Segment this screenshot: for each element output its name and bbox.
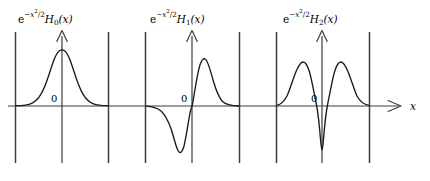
panel-h0-label-index: 0 xyxy=(54,18,59,27)
x-axis xyxy=(8,101,401,112)
panel-h1-label: e−x2/2H1(x) xyxy=(150,11,205,24)
panel-h2-origin-label: 0 xyxy=(311,94,317,104)
panel-h0-group xyxy=(16,31,109,164)
panel-h2-group xyxy=(277,31,370,164)
panel-h0-label-exponent: −x2/2 xyxy=(24,10,45,19)
panel-h0-label-arg: (x) xyxy=(59,13,73,25)
x-axis-label: x xyxy=(410,101,416,112)
panel-h0-label-H: H xyxy=(45,13,54,25)
panel-h1-label-exponent: −x2/2 xyxy=(156,10,177,19)
panel-h0-origin-label: 0 xyxy=(51,94,57,104)
panel-h1-group xyxy=(146,31,240,164)
panel-h1-label-index: 1 xyxy=(186,18,191,27)
hermite-function-figure: e−x2/2H0(x) e−x2/2H1(x) e−x2/2H2(x) 0 0 … xyxy=(0,0,430,181)
panel-h0-label: e−x2/2H0(x) xyxy=(18,11,73,24)
panel-h2-label-exponent: −x2/2 xyxy=(289,10,310,19)
panel-h2-label-arg: (x) xyxy=(324,13,338,25)
panel-h2-label: e−x2/2H2(x) xyxy=(283,11,338,24)
panel-h2-label-H: H xyxy=(310,13,319,25)
panel-h1-label-H: H xyxy=(177,13,186,25)
panel-h1-origin-label: 0 xyxy=(181,94,187,104)
panel-h1-label-arg: (x) xyxy=(191,13,205,25)
panel-h2-label-index: 2 xyxy=(319,18,324,27)
figure-canvas xyxy=(0,0,430,181)
